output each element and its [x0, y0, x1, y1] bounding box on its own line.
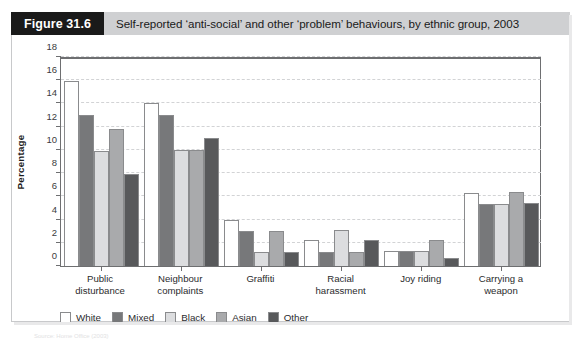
bar-other[interactable] — [124, 174, 139, 266]
bar-white[interactable] — [224, 220, 239, 266]
x-axis-label: Carrying aweapon — [461, 273, 541, 307]
bar-asian[interactable] — [109, 129, 124, 266]
x-axis-tick-mark — [341, 266, 342, 271]
bar-asian[interactable] — [429, 240, 444, 266]
bar-other[interactable] — [524, 203, 539, 266]
bar-black[interactable] — [414, 251, 429, 266]
bar-black[interactable] — [174, 150, 189, 266]
bar-asian[interactable] — [269, 231, 284, 266]
x-axis-label: Racialharassment — [301, 273, 381, 307]
bar-group — [461, 57, 541, 266]
bar-asian[interactable] — [509, 192, 524, 266]
bar-asian[interactable] — [349, 252, 364, 266]
x-axis-tick-mark — [181, 266, 182, 271]
y-axis-tick-label: 12 — [35, 110, 57, 121]
y-axis-tick-label: 0 — [35, 250, 57, 261]
y-axis-tick-label: 2 — [35, 226, 57, 237]
bar-white[interactable] — [304, 240, 319, 266]
figure-header: Figure 31.6 Self-reported ‘anti-social’ … — [11, 12, 570, 35]
y-axis-tick-label: 4 — [35, 203, 57, 214]
x-axis-label: Neighbourcomplaints — [140, 273, 220, 307]
bar-white[interactable] — [464, 193, 479, 266]
figure-number-label: Figure 31.6 — [11, 12, 104, 35]
source-footnote: Source: Home Office (2003) — [34, 333, 109, 339]
bar-mixed[interactable] — [239, 231, 254, 266]
bar-other[interactable] — [444, 258, 459, 266]
bar-group — [221, 57, 301, 266]
x-axis-label-line: Carrying a — [461, 273, 541, 285]
bar-mixed[interactable] — [399, 251, 414, 266]
x-axis-tick-mark — [501, 266, 502, 271]
bar-group — [141, 57, 221, 266]
figure-container: Figure 31.6 Self-reported ‘anti-social’ … — [0, 0, 581, 340]
x-axis-label-line: Public — [60, 273, 140, 285]
bar-group — [61, 57, 141, 266]
bar-mixed[interactable] — [479, 204, 494, 266]
bar-group — [301, 57, 381, 266]
bar-black[interactable] — [494, 204, 509, 266]
figure-title: Self-reported ‘anti-social’ and other ‘p… — [104, 12, 570, 35]
bar-black[interactable] — [334, 230, 349, 266]
x-axis-label: Publicdisturbance — [60, 273, 140, 307]
x-axis-tick-mark — [101, 266, 102, 271]
y-axis-tick-label: 10 — [35, 133, 57, 144]
y-axis-tick-label: 14 — [35, 87, 57, 98]
x-axis-label-line: Racial — [301, 273, 381, 285]
bar-mixed[interactable] — [159, 115, 174, 266]
bar-other[interactable] — [364, 240, 379, 266]
bar-other[interactable] — [204, 138, 219, 266]
x-axis-labels: PublicdisturbanceNeighbourcomplaintsGraf… — [60, 273, 541, 307]
x-axis-label-line: weapon — [461, 285, 541, 297]
x-axis-tick-mark — [261, 266, 262, 271]
x-axis-label-line: Graffiti — [220, 273, 300, 285]
bar-black[interactable] — [94, 151, 109, 266]
plot-area: 024681012141618 — [60, 57, 541, 267]
x-axis-label-line: disturbance — [60, 285, 140, 297]
chart-panel: Percentage 024681012141618 Publicdisturb… — [11, 35, 570, 322]
y-axis-tick-label: 16 — [35, 64, 57, 75]
y-axis-tick-label: 8 — [35, 157, 57, 168]
x-axis-label: Graffiti — [220, 273, 300, 307]
y-axis-tick-label: 18 — [35, 41, 57, 52]
x-axis-label-line: harassment — [301, 285, 381, 297]
y-axis-tick-label: 6 — [35, 180, 57, 191]
x-axis-tick-mark — [421, 266, 422, 271]
bar-white[interactable] — [144, 103, 159, 266]
bar-white[interactable] — [64, 81, 79, 266]
bar-black[interactable] — [254, 252, 269, 266]
panel-shadow-right — [569, 15, 572, 325]
y-axis-label: Percentage — [15, 135, 26, 190]
x-axis-label-line: Joy riding — [381, 273, 461, 285]
bar-other[interactable] — [284, 252, 299, 266]
x-axis-label: Joy riding — [381, 273, 461, 307]
bar-mixed[interactable] — [79, 115, 94, 266]
bar-white[interactable] — [384, 251, 399, 266]
panel-shadow-bottom — [14, 322, 571, 325]
bar-asian[interactable] — [189, 150, 204, 266]
x-axis-label-line: complaints — [140, 285, 220, 297]
bar-mixed[interactable] — [319, 252, 334, 266]
bar-group — [381, 57, 461, 266]
x-axis-label-line: Neighbour — [140, 273, 220, 285]
bar-groups — [61, 57, 541, 266]
